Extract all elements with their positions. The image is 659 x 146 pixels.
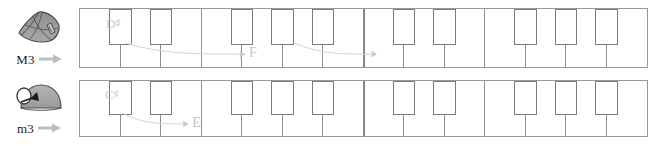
sharp-icon: ♯ xyxy=(115,17,120,28)
interval-label-m3: M3 xyxy=(16,53,34,66)
source-note-label: C♯ xyxy=(105,88,119,101)
right-arrow-icon xyxy=(38,119,62,137)
source-note-letter: D xyxy=(106,16,115,31)
target-note-label: F xyxy=(249,46,257,60)
interval-arrow-overlay xyxy=(80,81,647,136)
legend-row-minor-third: m3 xyxy=(0,78,79,137)
interval-curve xyxy=(125,43,240,54)
interval-label-m3-minor: m3 xyxy=(17,122,34,135)
figure-canvas: M3 D♯F xyxy=(0,0,659,146)
right-arrow-icon xyxy=(39,50,63,68)
arrow-head-icon xyxy=(372,51,377,57)
interval-curve xyxy=(295,43,372,54)
keyboard-minor-third[interactable]: C♯E xyxy=(79,80,648,137)
interval-arrow-overlay xyxy=(80,9,647,67)
legend-tag-major-third: M3 xyxy=(0,51,79,67)
legend-tag-minor-third: m3 xyxy=(0,120,79,136)
arrow-head-icon xyxy=(240,51,245,57)
source-note-letter: C xyxy=(105,87,114,102)
interval-curve xyxy=(123,113,184,124)
keyboard-major-third[interactable]: D♯F xyxy=(79,8,648,68)
sharp-icon: ♯ xyxy=(114,88,119,99)
arrow-head-icon xyxy=(183,121,188,127)
legend-row-major-third: M3 xyxy=(0,8,79,68)
source-note-label: D♯ xyxy=(106,17,120,30)
wedge-fan-icon xyxy=(12,9,68,49)
target-note-label: E xyxy=(192,116,201,130)
dome-ball-icon xyxy=(12,78,68,118)
